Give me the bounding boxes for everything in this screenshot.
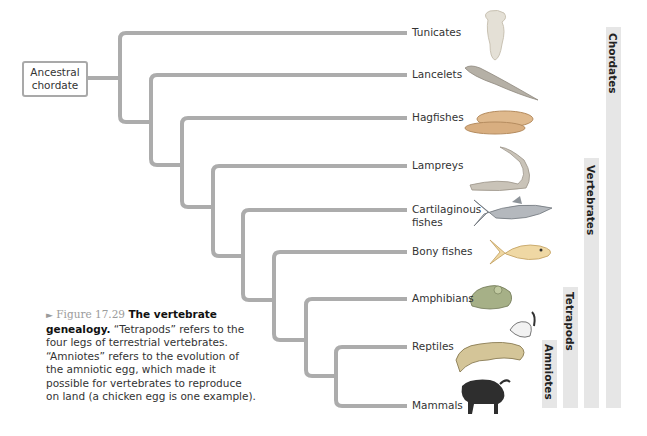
figure-caption: ► Figure 17.29 The vertebrate genealogy.… xyxy=(46,308,258,404)
root-label-line1: Ancestral xyxy=(24,66,86,79)
figure-number: Figure 17.29 xyxy=(56,308,125,320)
frog-icon xyxy=(470,286,512,309)
leaf-label-line2: fishes xyxy=(412,216,481,229)
group-label-vertebrates: Vertebrates xyxy=(585,165,597,235)
leaf-label-tunicates: Tunicates xyxy=(412,26,461,39)
group-label-tetrapods: Tetrapods xyxy=(564,292,576,351)
lancelet-icon xyxy=(465,66,538,100)
group-label-amniotes: Amniotes xyxy=(543,344,555,400)
leaf-label-cartilaginous-fishes: Cartilaginous fishes xyxy=(412,203,481,229)
hagfish-icon xyxy=(465,111,533,134)
leaf-label-mammals: Mammals xyxy=(412,399,463,412)
root-label-line2: chordate xyxy=(24,79,86,92)
group-label-chordates: Chordates xyxy=(607,33,619,94)
leaf-label-lampreys: Lampreys xyxy=(412,159,463,172)
leaf-label-bony-fishes: Bony fishes xyxy=(412,245,473,258)
lizard-bird-icon xyxy=(456,312,535,372)
leaf-label-amphibians: Amphibians xyxy=(412,292,474,305)
bony-fish-icon xyxy=(490,240,551,264)
root-node-ancestral-chordate: Ancestral chordate xyxy=(22,61,88,97)
leaf-label-lancelets: Lancelets xyxy=(412,68,462,81)
leaf-label-line1: Cartilaginous xyxy=(412,203,481,216)
lamprey-icon xyxy=(470,147,530,191)
leaf-label-reptiles: Reptiles xyxy=(412,340,454,353)
tunicate-icon xyxy=(485,10,505,60)
leaf-label-hagfishes: Hagfishes xyxy=(412,111,464,124)
shark-icon xyxy=(474,196,552,226)
caption-arrow-icon: ► xyxy=(46,310,53,320)
wildebeest-icon xyxy=(462,380,510,414)
